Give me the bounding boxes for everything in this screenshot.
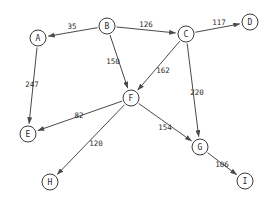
node-label: G: [198, 143, 203, 152]
edge-weight-label: 106: [215, 160, 229, 169]
node-label: C: [184, 30, 189, 39]
graph-diagram: 3512611724715016222082120154106 ABCDEFGH…: [0, 0, 280, 207]
edge-weight-label: 150: [106, 57, 120, 66]
edge-weight-label: 162: [156, 66, 170, 75]
graph-node-g[interactable]: G: [192, 139, 208, 155]
edge-weight-label: 35: [67, 22, 76, 31]
graph-node-i[interactable]: I: [237, 173, 253, 189]
graph-node-b[interactable]: B: [99, 18, 115, 34]
edge-weight-label: 220: [190, 88, 204, 97]
edge-weight-label: 154: [158, 123, 172, 132]
edge-weight-label: 247: [25, 80, 39, 89]
graph-node-a[interactable]: A: [30, 30, 46, 46]
node-label: A: [36, 34, 41, 43]
graph-node-c[interactable]: C: [178, 26, 194, 42]
edge-weight-label: 82: [74, 111, 83, 120]
node-label: B: [105, 22, 110, 31]
node-label: E: [26, 130, 31, 139]
edge-weight-label: 117: [212, 18, 226, 27]
graph-node-d[interactable]: D: [242, 14, 258, 30]
node-label: I: [243, 177, 248, 186]
edge-weight-label: 120: [89, 139, 103, 148]
node-label: D: [248, 18, 253, 27]
graph-node-f[interactable]: F: [123, 90, 139, 106]
graph-node-h[interactable]: H: [42, 174, 58, 190]
node-label: H: [48, 178, 53, 187]
edge-weight-label: 126: [139, 20, 153, 29]
graph-node-e[interactable]: E: [20, 126, 36, 142]
node-label: F: [129, 94, 134, 103]
